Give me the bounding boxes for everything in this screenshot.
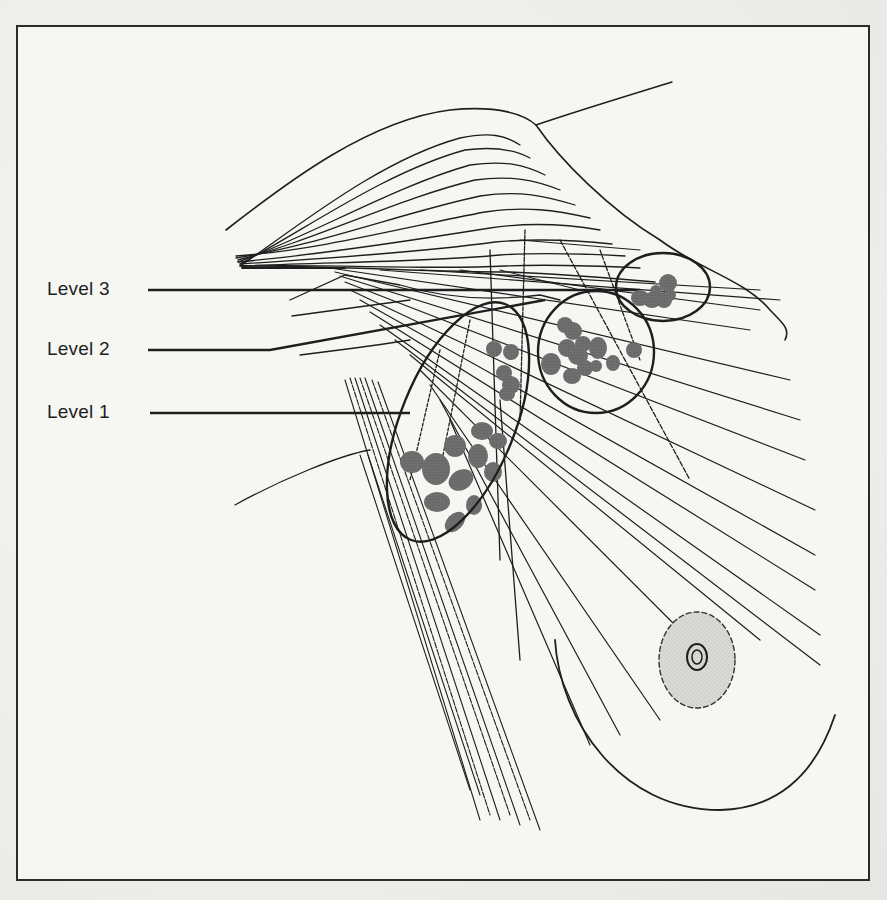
chest-fibers [330,240,820,745]
areola [659,612,735,708]
pectoral-muscle-fibers [236,135,655,282]
label-level-1: Level 1 [47,401,110,423]
lymph-nodes-level-2 [541,317,642,384]
label-level-3: Level 3 [47,278,110,300]
axilla-anatomy-drawing [0,0,887,900]
label-level-2: Level 2 [47,338,110,360]
lymph-nodes-level-3 [631,274,677,308]
shoulder-outline [226,82,787,340]
